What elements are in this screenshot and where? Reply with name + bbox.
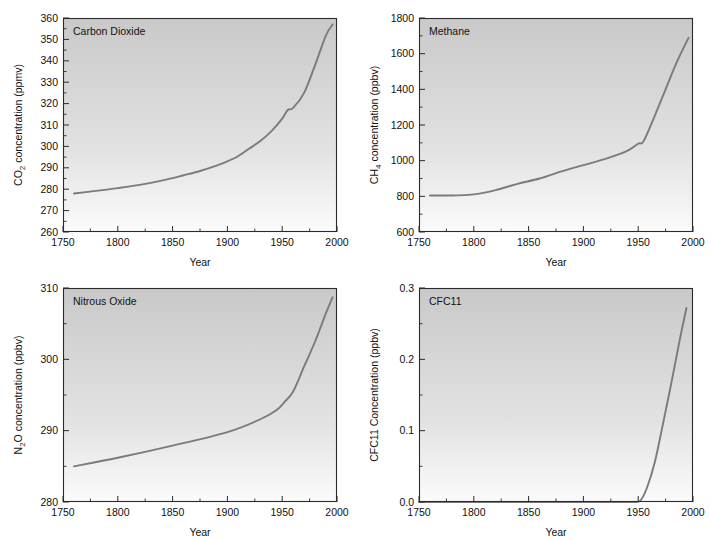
panel-cfc11: 0.00.10.20.3175018001850190019502000Year… <box>356 270 711 540</box>
x-tick-label: 2000 <box>325 236 349 248</box>
y-tick-label: 310 <box>40 119 58 131</box>
y-tick-label: 320 <box>40 97 58 109</box>
x-tick-label: 1900 <box>216 236 240 248</box>
y-tick-label: 0.3 <box>399 282 414 294</box>
panel-title-label: CFC11 <box>429 295 462 307</box>
y-axis-title: CO2 concentration (ppmv) <box>12 64 27 186</box>
x-tick-label: 2000 <box>681 506 705 518</box>
plot-background <box>63 288 337 502</box>
y-tick-label: 1200 <box>391 119 415 131</box>
y-tick-label: 290 <box>40 424 58 436</box>
y-axis-title: N2O concentration (ppbv) <box>12 336 27 455</box>
panel-title-label: Methane <box>429 25 470 37</box>
x-tick-label: 1800 <box>106 506 130 518</box>
x-tick-label: 1850 <box>517 506 541 518</box>
x-tick-label: 1900 <box>572 236 596 248</box>
y-tick-label: 270 <box>40 204 58 216</box>
y-tick-label: 0.2 <box>399 353 414 365</box>
x-axis-title: Year <box>189 526 211 538</box>
x-tick-label: 1950 <box>627 236 651 248</box>
y-tick-label: 310 <box>40 282 58 294</box>
plot-background <box>63 18 337 232</box>
x-tick-label: 1750 <box>51 236 75 248</box>
panel-methane: 6008001000120014001600180017501800185019… <box>356 0 711 270</box>
x-tick-label: 1900 <box>572 506 596 518</box>
y-tick-label: 300 <box>40 140 58 152</box>
panel-nitrous-oxide: 280290300310175018001850190019502000Year… <box>0 270 355 540</box>
y-tick-label: 350 <box>40 33 58 45</box>
x-tick-label: 1950 <box>271 236 295 248</box>
y-tick-label: 330 <box>40 76 58 88</box>
x-tick-label: 1800 <box>106 236 130 248</box>
figure-container: 2602702802903003103203303403503601750180… <box>0 0 711 540</box>
y-tick-label: 1600 <box>391 47 415 59</box>
y-tick-label: 340 <box>40 54 58 66</box>
x-axis-title: Year <box>545 526 567 538</box>
x-tick-label: 1800 <box>462 236 486 248</box>
y-axis-title: CFC11 Concentration (ppbv) <box>368 328 380 461</box>
x-tick-label: 1900 <box>216 506 240 518</box>
x-tick-label: 1850 <box>161 506 185 518</box>
x-tick-label: 1850 <box>517 236 541 248</box>
chart-ch4: 6008001000120014001600180017501800185019… <box>356 0 711 270</box>
x-tick-label: 2000 <box>325 506 349 518</box>
x-tick-label: 1750 <box>407 236 431 248</box>
y-tick-label: 280 <box>40 183 58 195</box>
x-axis-title: Year <box>545 256 567 268</box>
chart-co2: 2602702802903003103203303403503601750180… <box>0 0 355 270</box>
x-tick-label: 1750 <box>51 506 75 518</box>
y-tick-label: 1800 <box>391 12 415 24</box>
y-tick-label: 300 <box>40 353 58 365</box>
y-tick-label: 290 <box>40 161 58 173</box>
x-tick-label: 1950 <box>271 506 295 518</box>
y-axis-title: CH4 concentration (ppbv) <box>368 66 383 184</box>
x-tick-label: 1850 <box>161 236 185 248</box>
chart-n2o: 280290300310175018001850190019502000Year… <box>0 270 355 540</box>
y-tick-label: 1000 <box>391 154 415 166</box>
x-tick-label: 1950 <box>627 506 651 518</box>
panel-title-label: Nitrous Oxide <box>73 295 137 307</box>
x-tick-label: 1750 <box>407 506 431 518</box>
panel-title-label: Carbon Dioxide <box>73 25 146 37</box>
y-tick-label: 360 <box>40 12 58 24</box>
x-axis-title: Year <box>189 256 211 268</box>
y-tick-label: 0.1 <box>399 424 414 436</box>
chart-cfc11: 0.00.10.20.3175018001850190019502000Year… <box>356 270 711 540</box>
y-tick-label: 800 <box>396 190 414 202</box>
x-tick-label: 2000 <box>681 236 705 248</box>
y-tick-label: 1400 <box>391 83 415 95</box>
x-tick-label: 1800 <box>462 506 486 518</box>
panel-carbon-dioxide: 2602702802903003103203303403503601750180… <box>0 0 355 270</box>
